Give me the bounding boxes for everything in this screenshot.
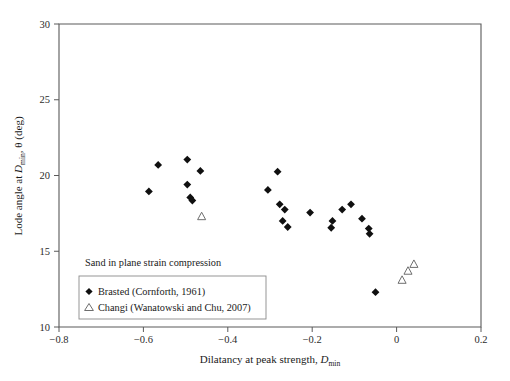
- data-point-diamond: [366, 230, 374, 238]
- y-axis-ticks: 1015202530: [40, 19, 60, 333]
- legend-marker-open-triangle: [85, 304, 94, 311]
- data-point-diamond: [281, 206, 289, 214]
- series-changi: [198, 212, 418, 283]
- data-point-diamond: [183, 156, 191, 164]
- data-point-diamond: [284, 223, 292, 231]
- legend-marker-filled-diamond: [85, 288, 92, 295]
- x-tick-label: −0.2: [303, 334, 322, 345]
- x-tick-label: 0.2: [474, 334, 487, 345]
- scatter-plot: 1015202530 −0.8−0.6−0.4−0.200.2 Dilatanc…: [0, 0, 510, 381]
- x-tick-label: −0.8: [49, 334, 68, 345]
- data-points-layer: [145, 156, 418, 296]
- x-axis-ticks: −0.8−0.6−0.4−0.200.2: [49, 327, 487, 345]
- figure-container: 1015202530 −0.8−0.6−0.4−0.200.2 Dilatanc…: [0, 0, 510, 381]
- y-tick-label: 30: [40, 19, 51, 30]
- x-axis-title: Dilatancy at peak strength, Dmin: [200, 353, 341, 368]
- axes-frame: [59, 24, 481, 327]
- y-axis-title: Lode angle at Dmin, θ (deg): [12, 116, 27, 235]
- x-tick-label: −0.6: [134, 334, 153, 345]
- data-point-diamond: [327, 224, 335, 232]
- data-point-diamond: [276, 200, 284, 208]
- data-point-diamond: [183, 181, 191, 189]
- legend-label-changi: Changi (Wanatowski and Chu, 2007): [98, 302, 251, 314]
- data-point-diamond: [306, 209, 314, 217]
- data-point-diamond: [264, 186, 272, 194]
- legend-label-brasted: Brasted (Cornforth, 1961): [98, 286, 205, 298]
- x-tick-label: 0: [394, 334, 399, 345]
- y-tick-label: 15: [40, 246, 51, 257]
- data-point-triangle: [398, 276, 406, 283]
- data-point-diamond: [145, 188, 153, 196]
- data-point-triangle: [410, 260, 418, 267]
- y-tick-label: 25: [40, 94, 51, 105]
- data-point-diamond: [329, 217, 337, 225]
- data-point-triangle: [198, 212, 206, 219]
- data-point-diamond: [274, 168, 282, 176]
- legend-annotation: Sand in plane strain compression: [85, 257, 221, 268]
- plot-border: [59, 24, 481, 327]
- y-tick-label: 20: [40, 170, 51, 181]
- series-brasted: [145, 156, 379, 296]
- data-point-diamond: [372, 288, 380, 296]
- data-point-diamond: [358, 215, 366, 223]
- legend-entry-changi: Changi (Wanatowski and Chu, 2007): [85, 302, 251, 314]
- y-tick-label: 10: [40, 322, 51, 333]
- data-point-diamond: [279, 217, 287, 225]
- data-point-diamond: [154, 161, 162, 169]
- data-point-diamond: [196, 167, 204, 175]
- legend-entry-brasted: Brasted (Cornforth, 1961): [85, 286, 205, 298]
- data-point-diamond: [347, 200, 355, 208]
- data-point-diamond: [338, 206, 346, 214]
- x-tick-label: −0.4: [218, 334, 238, 345]
